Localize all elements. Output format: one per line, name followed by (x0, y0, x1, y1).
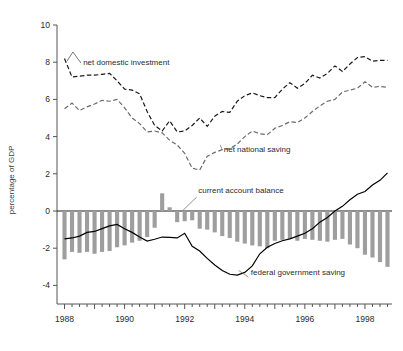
y-axis-title: percentage of GDP (7, 146, 16, 214)
y-tick-label: 0 (45, 206, 50, 216)
y-tick-label: 8 (45, 57, 50, 67)
x-tick-label: 1994 (235, 314, 254, 324)
label-federal-government-saving: federal government saving (251, 268, 345, 277)
bar (340, 211, 344, 239)
bar (145, 211, 149, 237)
x-tick-label: 1990 (115, 314, 134, 324)
bar (363, 211, 367, 255)
bar (168, 207, 172, 211)
label-net-domestic-investment: net domestic investment (83, 58, 170, 67)
bar (273, 211, 277, 241)
bar (108, 211, 112, 251)
x-tick-label: 1992 (175, 314, 194, 324)
y-tick-label: 6 (45, 94, 50, 104)
bar (175, 211, 179, 222)
bar (130, 211, 134, 243)
bar (288, 211, 292, 239)
bar (235, 211, 239, 242)
label-current-account-balance: current account balance (198, 186, 284, 195)
x-tick-label: 1998 (355, 314, 374, 324)
bar (100, 211, 104, 252)
bar (205, 211, 209, 230)
bar (250, 211, 254, 245)
bar (318, 211, 322, 241)
bar (333, 211, 337, 240)
bar (228, 211, 232, 238)
bar (213, 211, 217, 232)
y-tick-label: 4 (45, 132, 50, 142)
bar (92, 211, 96, 254)
bar (153, 211, 157, 228)
bar (77, 211, 81, 253)
bar (183, 211, 187, 221)
bar (198, 211, 202, 229)
y-tick-label: -4 (42, 280, 50, 290)
bar (385, 211, 389, 267)
bar (258, 211, 262, 246)
bar (190, 211, 194, 220)
bar (310, 211, 314, 240)
y-tick-label: -2 (42, 243, 50, 253)
bar (378, 211, 382, 262)
bar (355, 211, 359, 248)
bar (243, 211, 247, 244)
y-tick-label: 2 (45, 169, 50, 179)
label-net-national-saving: net national saving (224, 145, 291, 154)
bar (220, 211, 224, 236)
chart-container: 1086420-2-4 198819901992199419961998 net… (0, 0, 403, 351)
bar (265, 211, 269, 248)
bar (115, 211, 119, 247)
economic-indicators-chart: 1086420-2-4 198819901992199419961998 net… (0, 0, 403, 351)
bar (160, 193, 164, 211)
bar (85, 211, 89, 252)
x-tick-label: 1988 (55, 314, 74, 324)
bar (303, 211, 307, 239)
bar (280, 211, 284, 240)
chart-background (0, 0, 403, 351)
bar (62, 211, 66, 259)
bar (348, 211, 352, 244)
bar (70, 211, 74, 252)
y-tick-label: 10 (41, 20, 51, 30)
bar (370, 211, 374, 258)
x-tick-label: 1996 (295, 314, 314, 324)
